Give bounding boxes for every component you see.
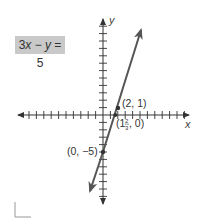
point-0-minus-5 xyxy=(101,150,105,154)
label-point-x-intercept: (1 2 3 , 0) xyxy=(116,117,144,131)
y-axis-label: y xyxy=(108,14,116,26)
y-axis xyxy=(99,19,107,204)
label-point-0-minus-5: (0, −5) xyxy=(67,145,98,157)
label-point-2-1: (2, 1) xyxy=(122,97,147,109)
corner-mark xyxy=(15,202,31,217)
x-axis-label: x xyxy=(184,118,191,130)
svg-text:, 0): , 0) xyxy=(129,117,144,129)
coordinate-plane: (2, 1) (1 2 3 , 0) (0, −5) x y xyxy=(0,0,202,221)
line-3x-minus-y-equals-5 xyxy=(90,30,141,191)
point-2-1 xyxy=(116,106,120,110)
